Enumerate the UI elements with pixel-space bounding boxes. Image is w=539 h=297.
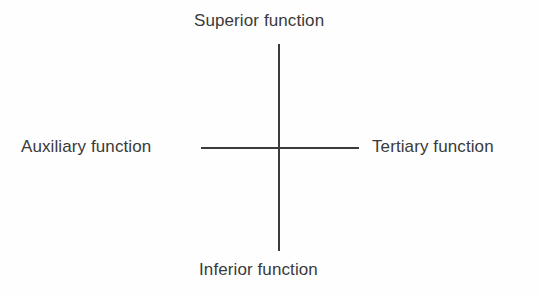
label-auxiliary-function: Auxiliary function <box>21 136 151 157</box>
label-tertiary-function: Tertiary function <box>372 136 494 157</box>
function-axis-diagram: Superior function Auxiliary function Ter… <box>0 0 539 297</box>
label-inferior-function: Inferior function <box>199 259 318 280</box>
label-superior-function: Superior function <box>194 10 324 31</box>
horizontal-axis-line <box>201 147 359 149</box>
